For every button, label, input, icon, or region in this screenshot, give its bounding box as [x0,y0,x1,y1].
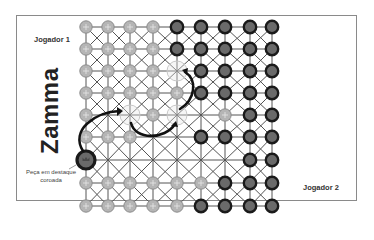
dark-piece [219,177,231,189]
callout-line1: Peça em destaque [19,168,83,176]
game-title: Zamma [36,74,64,154]
dark-piece [219,131,231,143]
highlight-destination [167,105,187,125]
dark-piece [244,154,256,166]
dark-piece [195,21,207,33]
player2-label: Jogador 2 [303,183,339,192]
highlight-destination [120,105,140,125]
dark-piece [244,43,256,55]
dark-piece [266,200,278,212]
dark-piece [244,131,256,143]
player1-label: Jogador 1 [34,35,70,44]
dark-piece [195,87,207,99]
dark-piece [219,87,231,99]
dark-piece [195,200,207,212]
dark-piece [219,200,231,212]
dark-piece [244,87,256,99]
dark-piece [219,21,231,33]
dark-piece [266,87,278,99]
dark-piece [266,21,278,33]
dark-piece [244,21,256,33]
dark-piece [195,131,207,143]
dark-piece [244,177,256,189]
dark-piece [244,65,256,77]
dark-piece [219,65,231,77]
dark-piece [219,43,231,55]
crowned-piece-callout: Peça em destaque coroada [19,168,83,184]
dark-piece [244,109,256,121]
dark-piece [266,65,278,77]
callout-line2: coroada [19,176,83,184]
dark-piece [195,43,207,55]
dark-piece [244,200,256,212]
dark-piece [266,43,278,55]
dark-piece [266,177,278,189]
dark-piece [171,43,183,55]
dark-piece [266,154,278,166]
dark-piece [266,131,278,143]
dark-piece [171,21,183,33]
dark-piece [195,65,207,77]
dark-piece [266,109,278,121]
